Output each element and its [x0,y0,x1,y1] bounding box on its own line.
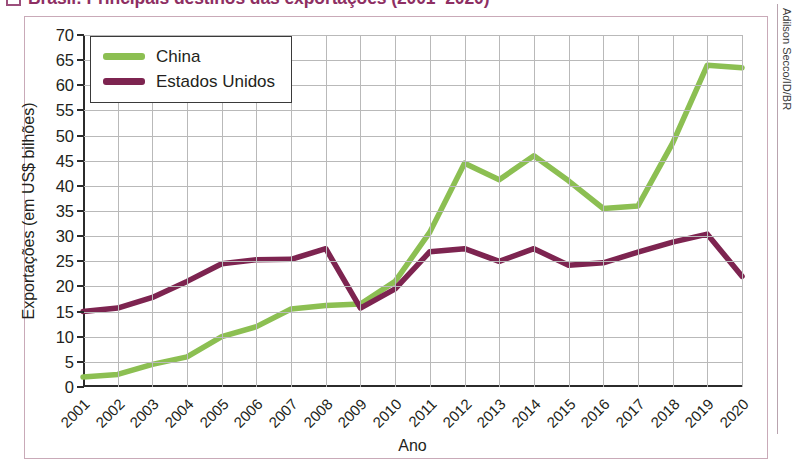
y-tick-label: 30 [44,227,74,246]
y-tick-label: 60 [44,76,74,95]
square-bullet-icon [6,0,21,6]
y-tick-mark [77,311,84,313]
gridline-vertical [707,35,708,387]
gridline-vertical [465,35,466,387]
gridline-vertical [742,35,743,387]
y-tick-label: 0 [44,378,74,397]
legend-item-label: China [156,47,200,67]
y-tick-label: 65 [44,51,74,70]
y-axis-title-text: Exportações (em US$ bilhões) [20,103,38,320]
gridline-horizontal [83,362,742,363]
credit-text: Adilson Secco/ID/BR [781,8,793,110]
gridline-vertical [430,35,431,387]
gridline-horizontal [83,337,742,338]
y-tick-label: 45 [44,151,74,170]
gridline-horizontal [83,186,742,187]
y-tick-label: 70 [44,26,74,45]
y-tick-label: 20 [44,277,74,296]
gridline-vertical [638,35,639,387]
gridline-vertical [534,35,535,387]
gridline-horizontal [83,110,742,111]
credit-line: Adilson Secco/ID/BR [780,8,796,208]
gridline-horizontal [83,161,742,162]
y-tick-mark [77,185,84,187]
gridline-vertical [603,35,604,387]
y-tick-label: 25 [44,252,74,271]
y-tick-mark [77,210,84,212]
y-tick-label: 50 [44,126,74,145]
gridline-vertical [395,35,396,387]
y-tick-mark [77,235,84,237]
y-tick-mark [77,160,84,162]
legend-swatch-icon [103,78,145,85]
chart-title-strip: Brasil: Principais destinos das exportaç… [0,0,760,9]
series-line-china [83,65,742,377]
y-tick-mark [77,361,84,363]
legend: ChinaEstados Unidos [90,36,292,103]
y-tick-label: 35 [44,202,74,221]
gridline-horizontal [83,136,742,137]
gridline-vertical [360,35,361,387]
legend-swatch-icon [103,53,145,60]
y-tick-mark [77,386,84,388]
y-tick-label: 40 [44,176,74,195]
y-tick-mark [77,336,84,338]
y-tick-label: 10 [44,327,74,346]
y-tick-mark [77,285,84,287]
y-axis-title: Exportações (em US$ bilhões) [18,35,40,387]
page-title: Brasil: Principais destinos das exportaç… [28,0,489,9]
credit-divider [777,4,778,434]
series-line-estados-unidos [83,234,742,311]
legend-item[interactable]: China [103,44,275,69]
gridline-horizontal [83,261,742,262]
y-tick-mark [77,84,84,86]
y-tick-label: 15 [44,302,74,321]
gridline-horizontal [83,211,742,212]
gridline-vertical [673,35,674,387]
gridline-horizontal [83,286,742,287]
y-tick-label: 55 [44,101,74,120]
x-axis-title: Ano [83,437,742,455]
chart-figure: Brasil: Principais destinos das exportaç… [0,0,798,474]
y-tick-mark [77,34,84,36]
legend-item-label: Estados Unidos [156,72,275,92]
y-tick-label: 5 [44,352,74,371]
y-tick-mark [77,135,84,137]
legend-item[interactable]: Estados Unidos [103,69,275,94]
gridline-vertical [569,35,570,387]
y-tick-mark [77,109,84,111]
gridline-horizontal [83,312,742,313]
y-tick-mark [77,260,84,262]
gridline-vertical [499,35,500,387]
gridline-vertical [326,35,327,387]
y-tick-mark [77,59,84,61]
gridline-horizontal [83,236,742,237]
